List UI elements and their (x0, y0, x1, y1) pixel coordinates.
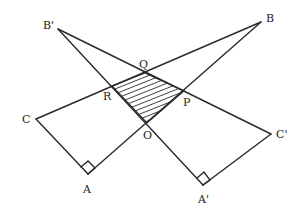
label-q: Q (139, 58, 148, 71)
label-b-prime: B' (43, 19, 54, 32)
right-angle-mark-a-prime (197, 172, 210, 185)
label-r: R (103, 90, 112, 103)
label-a-prime: A' (197, 193, 209, 206)
label-a: A (82, 183, 92, 196)
right-angle-mark-a (81, 161, 95, 174)
label-b: B (266, 12, 274, 25)
geometry-diagram: B' B Q R P O C A C' A' (0, 0, 303, 213)
label-o: O (143, 129, 152, 142)
label-c: C (22, 113, 30, 126)
label-p: P (183, 96, 191, 109)
triangle-abc (36, 22, 261, 174)
label-c-prime: C' (276, 128, 287, 141)
